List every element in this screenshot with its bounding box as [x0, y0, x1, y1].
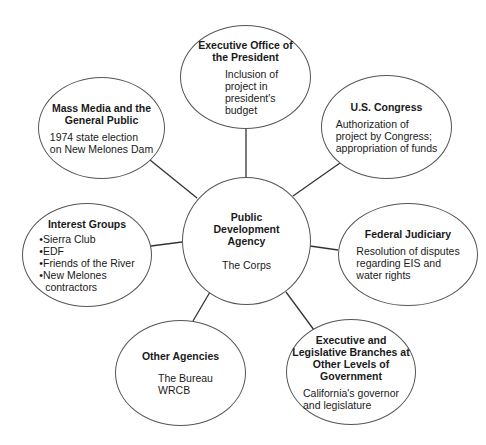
node-executive-office: Executive Office of the President Inclus… [180, 25, 311, 129]
node-interest-groups: Interest Groups Sierra Club EDF Friends … [22, 203, 152, 307]
node-body: The Corps [222, 259, 271, 271]
link-other-agencies [193, 292, 210, 321]
link-interest-groups [151, 242, 182, 246]
node-title: U.S. Congress [351, 101, 423, 113]
link-other-levels [286, 292, 314, 330]
node-title: Federal Judiciary [365, 228, 451, 240]
node-us-congress: U.S. Congress Authorization of project b… [321, 75, 452, 179]
node-federal-judiciary: Federal Judiciary Resolution of disputes… [338, 203, 478, 306]
node-title: Executive Office of the President [196, 39, 296, 63]
node-body: Resolution of disputes regarding EIS and… [356, 245, 459, 281]
node-title: Public Development Agency [197, 211, 297, 247]
node-title: Other Agencies [142, 350, 219, 362]
node-title: Mass Media and the General Public [52, 102, 152, 126]
node-title: Executive and Legislative Branches at Ot… [292, 334, 410, 382]
node-body: Authorization of project by Congress; ap… [336, 118, 438, 154]
node-body: The Bureau WRCB [158, 372, 213, 396]
node-other-levels-government: Executive and Legislative Branches at Ot… [286, 319, 416, 425]
link-federal-judiciary [310, 246, 338, 250]
node-title: Interest Groups [48, 218, 126, 230]
node-center-public-development-agency: Public Development Agency The Corps [182, 177, 311, 305]
node-body: 1974 state election on New Melones Dam [50, 131, 153, 155]
node-other-agencies: Other Agencies The Bureau WRCB [115, 320, 246, 426]
node-body: Sierra Club EDF Friends of the River New… [39, 233, 134, 293]
node-body: California's governor and legislature [303, 387, 399, 411]
link-us-congress [293, 163, 340, 196]
link-mass-media [150, 160, 197, 198]
node-body: Inclusion of project in president's budg… [225, 68, 278, 116]
node-mass-media: Mass Media and the General Public 1974 s… [38, 77, 165, 179]
